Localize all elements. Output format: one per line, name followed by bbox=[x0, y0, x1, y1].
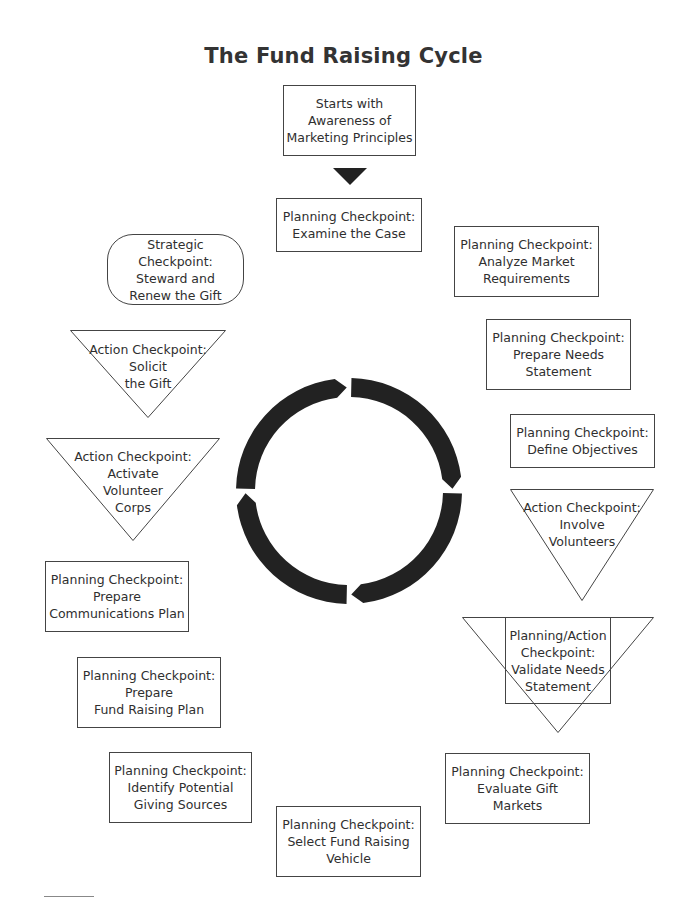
footnote-divider bbox=[44, 896, 94, 897]
node-solicit-gift: Action Checkpoint: Solicit the Gift bbox=[70, 330, 226, 418]
node-fund-raising-plan: Planning Checkpoint: Prepare Fund Raisin… bbox=[77, 657, 221, 728]
cycle-arrow-segment bbox=[351, 378, 461, 489]
node-activate-volunteers: Action Checkpoint: Activate Volunteer Co… bbox=[46, 438, 220, 541]
node-define-objectives: Planning Checkpoint: Define Objectives bbox=[510, 414, 655, 468]
node-label: Planning Checkpoint: Prepare Fund Raisin… bbox=[83, 667, 215, 718]
node-label: Planning/Action Checkpoint: Validate Nee… bbox=[509, 627, 606, 695]
node-label: Planning Checkpoint: Identify Potential … bbox=[114, 762, 246, 813]
node-label: Planning Checkpoint: Analyze Market Requ… bbox=[460, 236, 592, 287]
node-identify-sources: Planning Checkpoint: Identify Potential … bbox=[109, 752, 252, 823]
node-select-vehicle: Planning Checkpoint: Select Fund Raising… bbox=[276, 806, 421, 877]
node-label: Action Checkpoint: Involve Volunteers bbox=[510, 499, 654, 550]
node-label: Planning Checkpoint: Examine the Case bbox=[283, 208, 415, 242]
cycle-arrow-segment bbox=[237, 493, 347, 604]
node-involve-volunteers: Action Checkpoint: Involve Volunteers bbox=[510, 489, 654, 601]
node-communications-plan: Planning Checkpoint: Prepare Communicati… bbox=[45, 561, 189, 632]
node-evaluate-gift-markets: Planning Checkpoint: Evaluate Gift Marke… bbox=[445, 753, 590, 824]
node-label: Strategic Checkpoint: Steward and Renew … bbox=[108, 236, 243, 304]
cycle-arrow-segment bbox=[236, 379, 347, 489]
cycle-arrow-segment bbox=[351, 493, 462, 603]
node-label: Planning Checkpoint: Prepare Communicati… bbox=[49, 571, 185, 622]
node-prepare-needs: Planning Checkpoint: Prepare Needs State… bbox=[486, 319, 631, 390]
node-label: Planning Checkpoint: Prepare Needs State… bbox=[492, 329, 624, 380]
node-label: Planning Checkpoint: Select Fund Raising… bbox=[282, 816, 414, 867]
node-steward-renew: Strategic Checkpoint: Steward and Renew … bbox=[107, 234, 244, 305]
node-analyze-market: Planning Checkpoint: Analyze Market Requ… bbox=[454, 226, 599, 297]
node-validate-needs-box: Planning/Action Checkpoint: Validate Nee… bbox=[505, 617, 611, 704]
node-examine-case: Planning Checkpoint: Examine the Case bbox=[276, 198, 422, 252]
node-label: Planning Checkpoint: Define Objectives bbox=[516, 424, 648, 458]
node-label: Action Checkpoint: Solicit the Gift bbox=[70, 341, 226, 392]
node-label: Planning Checkpoint: Evaluate Gift Marke… bbox=[451, 763, 583, 814]
node-label: Action Checkpoint: Activate Volunteer Co… bbox=[46, 448, 220, 516]
